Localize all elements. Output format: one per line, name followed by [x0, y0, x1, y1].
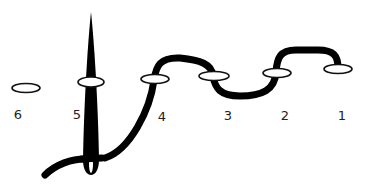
hole-label-1: 1 — [338, 109, 346, 122]
hole-4 — [141, 75, 169, 84]
stitch-diagram: 6 5 4 3 2 1 — [0, 0, 367, 192]
thread — [105, 50, 338, 158]
needle-icon — [83, 12, 99, 175]
hole-label-2: 2 — [281, 109, 289, 122]
hole-6 — [12, 84, 40, 93]
hole-5 — [78, 77, 104, 87]
thread-through-eye — [82, 158, 102, 159]
hole-label-6: 6 — [14, 108, 22, 121]
hole-2 — [263, 69, 291, 78]
holes — [12, 65, 352, 93]
hole-label-3: 3 — [224, 109, 232, 122]
hole-1 — [324, 65, 352, 74]
hole-label-5: 5 — [73, 108, 81, 121]
diagram-canvas — [0, 0, 367, 192]
hole-label-4: 4 — [158, 110, 166, 123]
hole-3 — [199, 72, 229, 81]
